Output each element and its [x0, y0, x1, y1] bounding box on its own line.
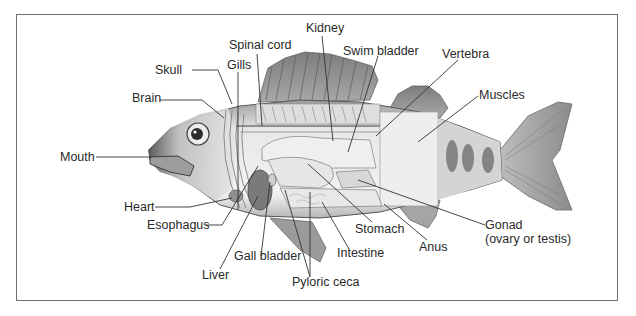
fish-illustration — [0, 0, 636, 316]
label-mouth: Mouth — [60, 150, 95, 164]
label-esophagus: Esophagus — [147, 218, 210, 232]
label-anus: Anus — [419, 240, 448, 254]
label-muscles: Muscles — [479, 88, 525, 102]
label-skull: Skull — [155, 63, 182, 77]
dorsal-fin — [258, 52, 378, 102]
heart-organ — [229, 190, 243, 202]
label-vertebra: Vertebra — [442, 47, 489, 61]
spine-band — [256, 104, 380, 124]
label-gonad: Gonad — [485, 218, 523, 232]
label-spinal-cord: Spinal cord — [229, 38, 292, 52]
caudal-fin — [500, 102, 572, 210]
label-gills: Gills — [227, 58, 251, 72]
label-gall-bladder: Gall bladder — [234, 249, 301, 263]
fish-head — [148, 108, 236, 200]
gall-bladder-organ — [268, 174, 276, 186]
label-brain: Brain — [132, 91, 161, 105]
intestine-organ — [280, 188, 382, 208]
label-gonad-note: (ovary or testis) — [485, 232, 571, 246]
label-swim-bladder: Swim bladder — [343, 44, 419, 58]
muscle-block — [380, 112, 438, 206]
label-heart: Heart — [124, 200, 155, 214]
label-pyloric-ceca: Pyloric ceca — [292, 275, 359, 289]
label-stomach: Stomach — [355, 222, 404, 236]
label-liver: Liver — [202, 268, 229, 282]
label-kidney: Kidney — [306, 21, 344, 35]
label-intestine: Intestine — [337, 246, 384, 260]
